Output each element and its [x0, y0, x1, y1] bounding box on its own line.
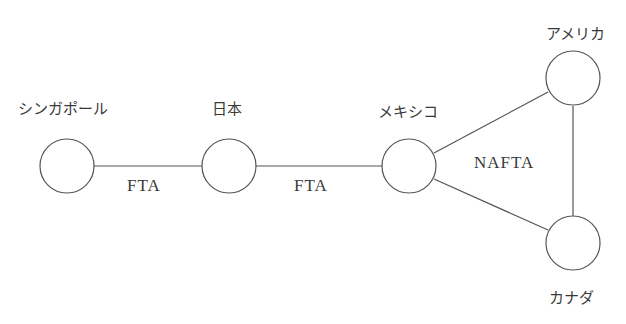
edge-mexico-canada [434, 179, 548, 230]
node-canada [546, 216, 600, 270]
group-label-nafta: NAFTA [474, 153, 534, 173]
label-usa: アメリカ [546, 22, 605, 43]
edge-label-fta-1: FTA [127, 176, 161, 196]
label-canada: カナダ [549, 286, 594, 307]
node-mexico [382, 139, 436, 193]
label-japan: 日本 [212, 97, 242, 118]
node-usa [546, 51, 600, 105]
node-singapore [40, 139, 94, 193]
node-japan [202, 139, 256, 193]
edge-mexico-usa [434, 92, 548, 153]
label-singapore: シンガポール [18, 97, 108, 118]
label-mexico: メキシコ [378, 100, 438, 121]
edge-label-fta-2: FTA [294, 176, 328, 196]
